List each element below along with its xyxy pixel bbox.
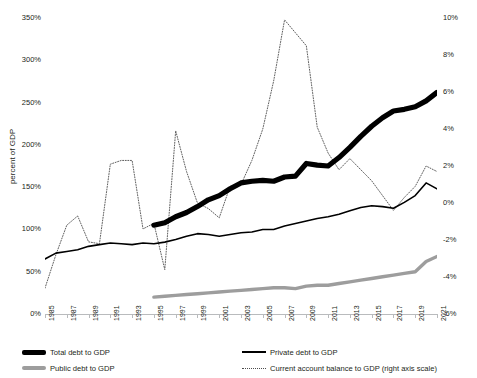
y-left-tick-300: 300%	[1, 56, 41, 64]
x-tick-2017: 2017	[396, 305, 403, 321]
y-right-tick-2: 2%	[443, 162, 477, 170]
y-left-tick-200: 200%	[1, 141, 41, 149]
y-right-tick-6: 6%	[443, 88, 477, 96]
x-tick-1995: 1995	[157, 305, 164, 321]
y-right-tick--2: -2%	[443, 236, 477, 244]
y-right-tick--4: -4%	[443, 273, 477, 281]
legend-swatch-public-debt	[22, 366, 46, 370]
y-right-tick-8: 8%	[443, 51, 477, 59]
legend-item-total-debt[interactable]: Total debt to GDP	[22, 346, 110, 358]
plot-area	[45, 18, 437, 314]
series-total-debt-line	[154, 92, 437, 225]
x-tick-1991: 1991	[113, 305, 120, 321]
legend-item-public-debt[interactable]: Public debt to GDP	[22, 362, 115, 374]
x-tick-1989: 1989	[92, 305, 99, 321]
legend-swatch-private-debt	[242, 351, 266, 353]
chart-figure: percent of GDP 350%300%250%200%150%100%5…	[0, 0, 477, 378]
y-left-tick-250: 250%	[1, 99, 41, 107]
y-left-tick-350: 350%	[1, 14, 41, 22]
x-tick-2019: 2019	[418, 305, 425, 321]
y-axis-left-ticks: 350%300%250%200%150%100%50%0%	[0, 0, 41, 330]
y-left-tick-50: 50%	[1, 268, 41, 276]
legend-item-current-account[interactable]: Current account balance to GDP (right ax…	[242, 362, 437, 374]
y-right-tick-0: 0%	[443, 199, 477, 207]
y-right-tick-10: 10%	[443, 14, 477, 22]
y-right-tick-4: 4%	[443, 125, 477, 133]
x-tick-1985: 1985	[48, 305, 55, 321]
legend-label-current-account: Current account balance to GDP (right ax…	[270, 364, 437, 373]
series-private-debt-line	[45, 183, 437, 259]
y-left-tick-150: 150%	[1, 183, 41, 191]
y-axis-right-ticks: 10%8%6%4%2%0%-2%-4%-6%	[443, 0, 477, 330]
x-tick-1999: 1999	[200, 305, 207, 321]
y-left-tick-100: 100%	[1, 225, 41, 233]
legend-label-private-debt: Private debt to GDP	[270, 348, 338, 357]
legend-item-private-debt[interactable]: Private debt to GDP	[242, 346, 338, 358]
x-tick-2001: 2001	[222, 305, 229, 321]
x-tick-2009: 2009	[309, 305, 316, 321]
x-tick-2015: 2015	[375, 305, 382, 321]
series-current-account-line	[45, 20, 437, 288]
legend-label-total-debt: Total debt to GDP	[50, 348, 110, 357]
x-tick-2007: 2007	[288, 305, 295, 321]
x-tick-2011: 2011	[331, 306, 338, 321]
chart-legend: Total debt to GDP Public debt to GDP Pri…	[0, 344, 477, 378]
x-tick-2021: 2021	[440, 305, 447, 321]
x-tick-1987: 1987	[70, 305, 77, 321]
legend-swatch-total-debt	[22, 350, 46, 355]
legend-swatch-current-account	[242, 368, 266, 369]
x-tick-2005: 2005	[266, 305, 273, 321]
x-tick-1993: 1993	[135, 305, 142, 321]
chart-lines	[45, 18, 437, 314]
x-tick-2003: 2003	[244, 305, 251, 321]
series-public-debt-line	[154, 256, 437, 297]
page-title	[0, 0, 477, 6]
legend-label-public-debt: Public debt to GDP	[50, 364, 115, 373]
x-tick-2013: 2013	[353, 305, 360, 321]
x-tick-1997: 1997	[179, 305, 186, 321]
